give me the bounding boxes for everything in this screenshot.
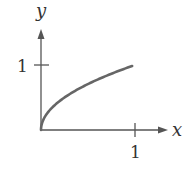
series-line [41, 66, 132, 130]
x-tick-label: 1 [130, 142, 141, 162]
chart: x y 1 1 [0, 0, 192, 171]
y-tick-label: 1 [17, 56, 28, 76]
y-axis-arrow-icon [38, 29, 45, 39]
marks [41, 66, 132, 130]
x-axis-arrow-icon [158, 127, 168, 134]
y-axis-label: y [35, 0, 47, 21]
axes [34, 29, 168, 137]
x-axis-label: x [172, 119, 182, 140]
